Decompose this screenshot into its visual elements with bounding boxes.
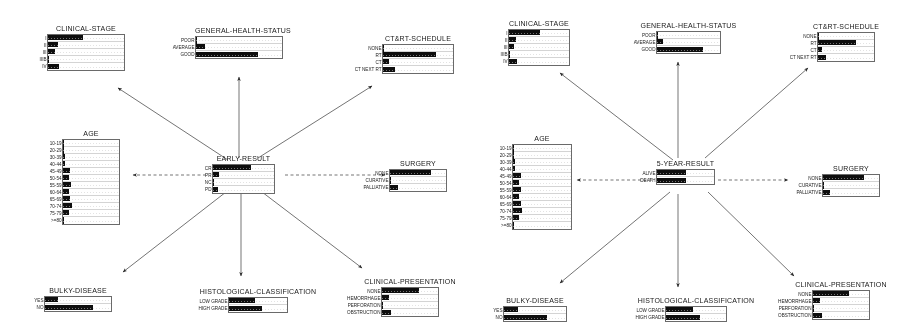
node-clinical-presentation[interactable]: CLINICAL-PRESENTATION NONEHEMORRHAGEPERF… <box>812 281 870 320</box>
bar-track <box>45 304 111 311</box>
bar-fill <box>504 307 518 312</box>
bar-track <box>818 33 874 40</box>
node-rows: IIIIIIIIIBIV <box>508 29 570 66</box>
bar-tick <box>63 140 64 147</box>
bar-row-label: OBSTRUCTION <box>778 312 813 319</box>
bar-fill <box>818 55 826 60</box>
bar-fill <box>513 194 519 199</box>
bar-track <box>383 45 453 52</box>
bar-fill <box>390 170 431 175</box>
bar-fill <box>513 215 519 220</box>
bar-track <box>813 291 869 298</box>
node-rows: NONEHEMORRHAGEPERFORATIONOBSTRUCTION <box>381 287 439 317</box>
bar-fill <box>657 178 686 183</box>
bar-track <box>48 35 124 42</box>
bar-fill <box>213 172 219 177</box>
bar-tick <box>383 45 384 52</box>
bar-row: AVERAGE <box>657 39 720 46</box>
node-surgery[interactable]: SURGERY NONECURATIVEPALLIATIVE <box>822 165 880 197</box>
node-bulky-disease[interactable]: BULKY-DISEASE YESNO <box>503 297 567 322</box>
bar-fill <box>48 35 83 40</box>
node-title: BULKY-DISEASE <box>44 287 112 295</box>
bar-row-label: LOW GRADE <box>636 307 666 314</box>
bar-track <box>513 194 571 201</box>
bar-track <box>48 42 124 49</box>
node-title: SURGERY <box>389 160 447 168</box>
bar-track <box>513 159 571 166</box>
bar-row-label: CURATIVE <box>799 182 823 189</box>
bar-track <box>823 182 879 189</box>
node-histological-classification[interactable]: HISTOLOGICAL-CLASSIFICATION LOW GRADEHIG… <box>228 288 288 313</box>
bar-tick <box>390 177 391 184</box>
bar-row-label: HEMORRHAGE <box>778 298 813 305</box>
bar-tick <box>818 33 819 40</box>
bar-fill <box>382 288 419 293</box>
bar-row: CURATIVE <box>823 182 879 189</box>
node-rows: POORAVERAGEGOOD <box>195 36 283 59</box>
bar-track <box>509 58 569 65</box>
bar-fill <box>48 42 58 47</box>
node-rows: POORAVERAGEGOOD <box>656 31 721 54</box>
node-title: HISTOLOGICAL-CLASSIFICATION <box>188 288 328 296</box>
bar-track <box>196 51 282 58</box>
node-surgery[interactable]: SURGERY NONECURATIVEPALLIATIVE <box>389 160 447 192</box>
bar-row: >=80 <box>513 222 571 229</box>
bar-row: 75-79 <box>513 215 571 222</box>
node-general-health-status[interactable]: GENERAL-HEALTH-STATUS POORAVERAGEGOOD <box>195 27 283 59</box>
bar-fill <box>823 175 864 180</box>
node-rows: IIIIIIIIIBIV <box>47 34 125 71</box>
node-bulky-disease[interactable]: BULKY-DISEASE YESNO <box>44 287 112 312</box>
node-clinical-presentation[interactable]: CLINICAL-PRESENTATION NONEHEMORRHAGEPERF… <box>381 278 439 317</box>
node-rows: NONECURATIVEPALLIATIVE <box>389 169 447 192</box>
bar-track <box>509 51 569 58</box>
bar-row-label: HIGH GRADE <box>635 314 666 321</box>
bar-row-label: CT <box>810 47 818 54</box>
bar-track <box>63 196 119 203</box>
node-rows: LOW GRADEHIGH GRADE <box>228 297 288 313</box>
bar-row: CURATIVE <box>390 177 446 184</box>
bar-row-label: POOR <box>181 37 196 44</box>
bar-fill <box>63 175 69 180</box>
node-ctrt-schedule[interactable]: CT&RT-SCHEDULE NONERTCTCT NEXT RT <box>817 23 875 62</box>
bar-row: GOOD <box>196 51 282 58</box>
bar-row: HIGH GRADE <box>229 305 287 312</box>
node-title: AGE <box>62 130 120 138</box>
bar-tick <box>813 305 814 312</box>
bar-row-label: 30-39 <box>500 159 513 166</box>
bar-fill <box>390 185 398 190</box>
bar-track <box>513 208 571 215</box>
bar-row-label: NONE <box>808 175 823 182</box>
node-ctrt-schedule[interactable]: CT&RT-SCHEDULE NONERTCTCT NEXT RT <box>382 35 454 74</box>
bar-fill <box>657 39 663 44</box>
bar-track <box>504 307 566 314</box>
bar-track <box>383 59 453 66</box>
node-clinical-stage[interactable]: CLINICAL-STAGE IIIIIIIIIBIV <box>508 20 570 66</box>
node-histological-classification[interactable]: HISTOLOGICAL-CLASSIFICATION LOW GRADEHIG… <box>665 297 727 322</box>
bar-tick <box>48 56 49 63</box>
bar-row: PERFORATION <box>382 302 438 309</box>
node-title: GENERAL-HEALTH-STATUS <box>195 27 283 35</box>
bar-row-label: NONE <box>367 288 382 295</box>
bar-track <box>63 140 119 147</box>
bar-row: YES <box>45 297 111 304</box>
node-title: GENERAL-HEALTH-STATUS <box>628 22 749 30</box>
bar-tick <box>513 222 514 229</box>
bar-row: LOW GRADE <box>666 307 726 314</box>
bar-track <box>509 37 569 44</box>
bar-track <box>513 187 571 194</box>
node-early-result[interactable]: EARLY-RESULT CRPRNCPD <box>212 155 275 194</box>
bar-track <box>383 52 453 59</box>
bar-track <box>213 179 274 186</box>
bar-fill <box>213 187 218 192</box>
node-age[interactable]: AGE 10-1920-2930-3940-4445-4950-5455-596… <box>512 135 572 230</box>
bar-row-label: 65-69 <box>50 196 63 203</box>
bar-track <box>382 309 438 316</box>
node-clinical-stage[interactable]: CLINICAL-STAGE IIIIIIIIIBIV <box>47 25 125 71</box>
bar-track <box>63 189 119 196</box>
bar-track <box>813 312 869 319</box>
node-five-year-result[interactable]: 5-YEAR-RESULT ALIVEDEATH <box>656 160 715 185</box>
bar-track <box>63 161 119 168</box>
bar-row: NO <box>504 314 566 321</box>
node-age[interactable]: AGE 10-1920-2930-3940-4445-4950-5455-596… <box>62 130 120 225</box>
node-general-health-status[interactable]: GENERAL-HEALTH-STATUS POORAVERAGEGOOD <box>656 22 721 54</box>
